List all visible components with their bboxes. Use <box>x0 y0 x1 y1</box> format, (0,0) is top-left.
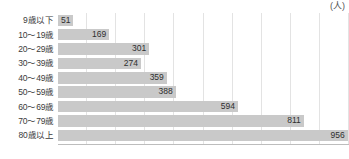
horizontal-bar-chart: (人) 9歳以下5110〜19歳16920〜29歳30130〜39歳27440〜… <box>0 0 349 159</box>
category-label: 70〜79歳 <box>0 114 54 128</box>
bar-value-label: 388 <box>158 86 172 98</box>
bar-wrapper: 594 <box>58 101 238 113</box>
bar-row: 60〜69歳594 <box>0 99 349 113</box>
bar: 359 <box>58 72 167 84</box>
category-label: 50〜59歳 <box>0 85 54 99</box>
plot-area: 9歳以下5110〜19歳16920〜29歳30130〜39歳27440〜49歳3… <box>0 13 349 146</box>
bar-rows: 9歳以下5110〜19歳16920〜29歳30130〜39歳27440〜49歳3… <box>0 13 349 143</box>
category-label: 60〜69歳 <box>0 100 54 114</box>
category-label: 9歳以下 <box>0 13 54 27</box>
bar: 301 <box>58 43 149 55</box>
bar: 274 <box>58 58 141 70</box>
bar: 956 <box>58 130 348 142</box>
bar-row: 9歳以下51 <box>0 13 349 27</box>
bar-row: 80歳以上956 <box>0 128 349 142</box>
bar-value-label: 956 <box>331 130 345 142</box>
bar-row: 40〜49歳359 <box>0 71 349 85</box>
unit-label: (人) <box>330 1 345 12</box>
bar-row: 30〜39歳274 <box>0 56 349 70</box>
category-label: 40〜49歳 <box>0 71 54 85</box>
bar-row: 50〜59歳388 <box>0 85 349 99</box>
bar-value-label: 169 <box>92 29 106 41</box>
bar-value-label: 301 <box>132 43 146 55</box>
bar-row: 70〜79歳811 <box>0 114 349 128</box>
bar-value-label: 594 <box>221 101 235 113</box>
category-label: 20〜29歳 <box>0 42 54 56</box>
bar: 51 <box>58 15 73 27</box>
category-label: 80歳以上 <box>0 128 54 142</box>
bar: 388 <box>58 86 176 98</box>
bar-wrapper: 359 <box>58 72 167 84</box>
bar-wrapper: 388 <box>58 86 176 98</box>
bar-wrapper: 301 <box>58 43 149 55</box>
bar-row: 20〜29歳301 <box>0 42 349 56</box>
bar-wrapper: 811 <box>58 115 304 127</box>
bar-value-label: 51 <box>61 15 70 27</box>
bar-row: 10〜19歳169 <box>0 27 349 41</box>
category-label: 30〜39歳 <box>0 56 54 70</box>
bar-value-label: 359 <box>150 72 164 84</box>
bar-value-label: 274 <box>124 58 138 70</box>
bar-wrapper: 956 <box>58 130 348 142</box>
bar: 169 <box>58 29 109 41</box>
category-label: 10〜19歳 <box>0 28 54 42</box>
bar: 811 <box>58 115 304 127</box>
x-axis-line <box>58 144 349 145</box>
bar: 594 <box>58 101 238 113</box>
bar-wrapper: 274 <box>58 58 141 70</box>
bar-wrapper: 169 <box>58 29 109 41</box>
bar-value-label: 811 <box>287 115 301 127</box>
bar-wrapper: 51 <box>58 15 73 27</box>
